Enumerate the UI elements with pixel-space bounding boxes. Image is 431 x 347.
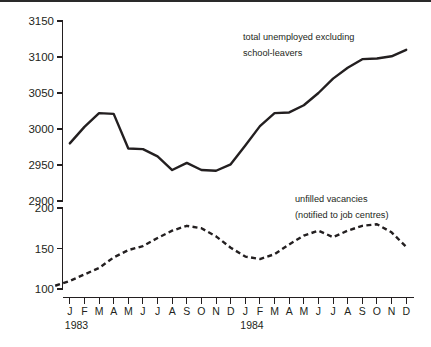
- x-axis-month-label: F: [81, 305, 87, 317]
- x-axis-month-label: A: [110, 305, 117, 317]
- upper-axis-tick-labels: 290029503000305031003150: [28, 15, 54, 207]
- unfilled-vacancies-annotation: unfilled vacancies (notified to job cent…: [295, 194, 388, 220]
- lower-axis-tick-label: 100: [35, 283, 54, 295]
- lower-axis-tick-label: 200: [35, 202, 54, 214]
- x-axis-month-label: N: [212, 305, 220, 317]
- unemployment-vacancies-chart: 290029503000305031003150 100150200 JFMAM…: [0, 0, 431, 347]
- unfilled-vacancies-annotation-line-1: unfilled vacancies: [295, 194, 368, 204]
- x-axis-month-label: A: [344, 305, 351, 317]
- x-axis-month-label: D: [402, 305, 410, 317]
- upper-axis-tick-label: 3150: [28, 15, 54, 27]
- x-axis-month-label: M: [124, 305, 133, 317]
- total-unemployed-annotation-line-1: total unemployed excluding: [243, 32, 354, 42]
- total-unemployed-line: [70, 50, 406, 171]
- upper-axis-group: 290029503000305031003150: [28, 15, 62, 207]
- upper-axis-tick-label: 3000: [28, 123, 54, 135]
- x-axis-month-labels: JFMAMJJASONDJFMAMJJASOND: [67, 305, 410, 317]
- chart-canvas: 290029503000305031003150 100150200 JFMAM…: [0, 0, 431, 347]
- upper-axis-ticks: [57, 21, 63, 201]
- x-axis-month-label: A: [286, 305, 293, 317]
- x-axis-month-label: M: [270, 305, 279, 317]
- upper-axis-tick-label: 2950: [28, 159, 54, 171]
- x-axis-month-label: F: [257, 305, 263, 317]
- x-axis-month-label: O: [373, 305, 381, 317]
- total-unemployed-annotation-line-2: school-leavers: [243, 48, 303, 58]
- x-axis-month-label: J: [140, 305, 145, 317]
- lower-axis-group: 100150200: [35, 202, 63, 295]
- x-axis-month-label: N: [388, 305, 396, 317]
- x-axis-month-label: S: [359, 305, 366, 317]
- x-axis-month-label: A: [169, 305, 176, 317]
- lower-axis-tick-label: 150: [35, 243, 54, 255]
- lower-axis-ticks: [57, 208, 63, 289]
- x-axis-month-label: D: [227, 305, 235, 317]
- x-axis-group: JFMAMJJASONDJFMAMJJASOND 19831984: [63, 298, 414, 332]
- x-axis-year-labels: 19831984: [65, 319, 264, 331]
- x-axis-month-label: J: [330, 305, 335, 317]
- x-axis-month-label: M: [299, 305, 308, 317]
- total-unemployed-annotation: total unemployed excluding school-leaver…: [243, 32, 354, 58]
- lower-axis-tick-labels: 100150200: [35, 202, 54, 295]
- x-axis-ticks: [70, 298, 406, 304]
- x-axis-month-label: J: [67, 305, 72, 317]
- x-axis-month-label: O: [197, 305, 205, 317]
- upper-axis-tick-label: 3100: [28, 51, 54, 63]
- x-axis-month-label: J: [243, 305, 248, 317]
- x-axis-month-label: M: [95, 305, 104, 317]
- unfilled-vacancies-line: [55, 224, 406, 286]
- unfilled-vacancies-annotation-line-2: (notified to job centres): [295, 210, 388, 220]
- x-axis-month-label: J: [316, 305, 321, 317]
- upper-axis-tick-label: 3050: [28, 87, 54, 99]
- x-axis-month-label: S: [183, 305, 190, 317]
- x-axis-year-label: 1984: [240, 319, 264, 331]
- x-axis-month-label: J: [155, 305, 160, 317]
- x-axis-year-label: 1983: [65, 319, 89, 331]
